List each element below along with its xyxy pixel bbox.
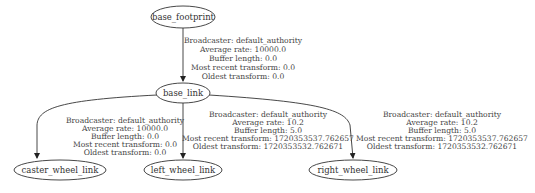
edge-label-base-link-left-wheel-link: Broadcaster: default_authority Average r… [182,110,354,151]
edge-label-base-footprint-base-link: Broadcaster: default_authority Average r… [184,36,303,81]
tf-tree-graph: Broadcaster: default_authority Average r… [0,0,535,193]
node-label: caster_wheel_link [22,165,100,176]
node-left-wheel-link[interactable]: left_wheel_link [144,160,222,180]
oldest-transform-text: Oldest transform: 0.0 [84,148,167,157]
average-rate-text: Average rate: 10000.0 [199,45,286,54]
edge-label-base-link-caster-wheel-link: Broadcaster: default_authority Average r… [66,116,185,157]
node-label: base_footprint [152,12,215,23]
oldest-transform-text: Oldest transform: 0.0 [202,72,285,81]
oldest-transform-text: Oldest transform: 1720353532.762671 [193,142,343,151]
node-label: right_wheel_link [317,165,389,176]
node-base-footprint[interactable]: base_footprint [151,6,215,28]
node-right-wheel-link[interactable]: right_wheel_link [309,160,397,180]
node-label: base_link [163,88,204,99]
node-label: left_wheel_link [151,165,216,176]
node-base-link[interactable]: base_link [156,83,210,103]
node-caster-wheel-link[interactable]: caster_wheel_link [14,160,106,180]
oldest-transform-text: Oldest transform: 1720353532.762671 [367,142,517,151]
edge-label-base-link-right-wheel-link: Broadcaster: default_authority Average r… [356,110,528,151]
buffer-length-text: Buffer length: 0.0 [209,54,277,63]
most-recent-transform-text: Most recent transform: 0.0 [191,63,295,72]
broadcaster-text: Broadcaster: default_authority [184,36,303,45]
